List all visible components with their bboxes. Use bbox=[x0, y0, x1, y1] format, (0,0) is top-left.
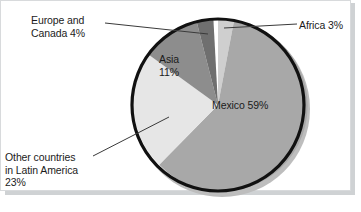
pie-chart-screenshot: Europe and Canada 4% Africa 3% Asia 11% … bbox=[0, 0, 361, 212]
slice-label-europe-canada: Europe and Canada 4% bbox=[31, 14, 85, 39]
slice-label-africa: Africa 3% bbox=[299, 19, 343, 32]
slice-label-asia: Asia 11% bbox=[149, 53, 189, 78]
slice-label-other-latin-america: Other countries in Latin America 23% bbox=[5, 151, 78, 189]
slice-label-mexico: Mexico 59% bbox=[212, 99, 268, 112]
pie-chart: Europe and Canada 4% Africa 3% Asia 11% … bbox=[1, 1, 352, 192]
chart-card: Europe and Canada 4% Africa 3% Asia 11% … bbox=[0, 0, 351, 191]
